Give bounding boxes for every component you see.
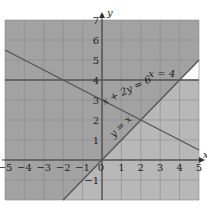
x-axis-label: x [203, 149, 207, 160]
y-axis-arrow-icon [99, 12, 105, 18]
y-tick-label: 6 [93, 35, 99, 46]
x-tick-label: −3 [36, 162, 51, 173]
x-tick-label: −1 [75, 162, 90, 173]
y-tick-label: 3 [93, 95, 99, 106]
y-tick-label: 5 [93, 55, 99, 66]
x-tick-label: 4 [176, 162, 182, 173]
x-tick-label: 1 [118, 162, 124, 173]
x-tick-label: −2 [56, 162, 71, 173]
annotation-label: x = 4 [149, 68, 176, 79]
x-tick-label: 2 [138, 162, 144, 173]
x-tick-label: 3 [157, 162, 163, 173]
y-tick-label: 7 [93, 15, 99, 26]
x-tick-label: −5 [0, 162, 12, 173]
annotation-label: 0 [98, 162, 104, 173]
x-tick-label: −4 [17, 162, 32, 173]
y-tick-label: 1 [93, 135, 99, 146]
linear-inequalities-graph: −5−4−3−2−112345−11234567 x = 4x + 2y = 6… [0, 0, 207, 206]
y-tick-label: 4 [93, 75, 99, 86]
x-tick-label: 5 [196, 162, 202, 173]
y-tick-label: 2 [93, 115, 99, 126]
y-axis-label: y [106, 7, 113, 18]
y-tick-label: −1 [84, 175, 99, 186]
